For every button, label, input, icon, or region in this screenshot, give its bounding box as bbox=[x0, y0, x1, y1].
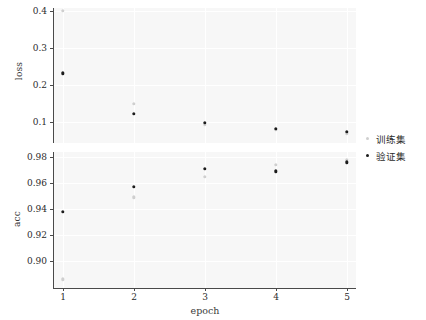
xtick-label-5: 5 bbox=[344, 292, 350, 302]
acc-ytick-label-0-96: 0.96 bbox=[8, 178, 47, 188]
loss-y-axis-spine bbox=[53, 8, 54, 143]
legend: 训练集 验证集 bbox=[366, 130, 426, 164]
data-point-acc-train bbox=[203, 175, 206, 178]
acc-ytick-label-0-92: 0.92 bbox=[8, 230, 47, 240]
acc-ytick-label-0-94: 0.94 bbox=[8, 204, 47, 214]
data-point-loss-train bbox=[132, 102, 135, 105]
gridline-acc-x2 bbox=[134, 152, 135, 288]
loss-ytick-0-4 bbox=[50, 11, 53, 12]
loss-ytick-0-3 bbox=[50, 48, 53, 49]
data-point-loss-train bbox=[61, 9, 64, 12]
data-point-acc-train bbox=[274, 163, 277, 166]
acc-plot-inner bbox=[54, 152, 356, 288]
legend-entry-train: 训练集 bbox=[366, 130, 426, 147]
xtick-label-3: 3 bbox=[202, 292, 208, 302]
acc-ytick-0-92 bbox=[50, 235, 53, 236]
gridline-acc-x1 bbox=[63, 152, 64, 288]
acc-plot-area bbox=[54, 152, 356, 288]
loss-ytick-0-1 bbox=[50, 122, 53, 123]
data-point-acc-val bbox=[203, 167, 206, 170]
acc-y-axis-spine bbox=[53, 152, 54, 288]
xtick-5 bbox=[347, 288, 348, 291]
data-point-acc-val bbox=[345, 160, 348, 163]
xtick-1 bbox=[63, 288, 64, 291]
acc-ytick-0-90 bbox=[50, 261, 53, 262]
loss-ytick-label-0-3: 0.3 bbox=[10, 43, 47, 53]
loss-plot-inner bbox=[54, 8, 356, 143]
loss-ytick-label-0-1: 0.1 bbox=[10, 117, 47, 127]
legend-label-train: 训练集 bbox=[376, 132, 406, 146]
gridline-loss-x1 bbox=[63, 8, 64, 143]
gridline-loss-x4 bbox=[276, 8, 277, 143]
data-point-acc-val bbox=[61, 210, 64, 213]
xtick-4 bbox=[276, 288, 277, 291]
data-point-acc-val bbox=[132, 185, 135, 188]
xtick-2 bbox=[134, 288, 135, 291]
data-point-loss-val bbox=[61, 71, 64, 74]
data-point-acc-train bbox=[61, 277, 64, 280]
xtick-label-2: 2 bbox=[131, 292, 137, 302]
legend-marker-train-icon bbox=[366, 137, 369, 140]
data-point-acc-val bbox=[274, 170, 277, 173]
data-point-loss-val bbox=[132, 112, 135, 115]
xtick-3 bbox=[205, 288, 206, 291]
gridline-acc-x5 bbox=[347, 152, 348, 288]
loss-ytick-0-2 bbox=[50, 85, 53, 86]
acc-ytick-0-98 bbox=[50, 157, 53, 158]
figure: loss 0. bbox=[0, 0, 426, 320]
legend-entry-val: 验证集 bbox=[366, 147, 426, 164]
xtick-label-1: 1 bbox=[60, 292, 66, 302]
loss-ytick-label-0-4: 0.4 bbox=[10, 6, 47, 16]
xtick-label-4: 4 bbox=[273, 292, 279, 302]
gridline-loss-x2 bbox=[134, 8, 135, 143]
acc-ytick-0-94 bbox=[50, 209, 53, 210]
legend-label-val: 验证集 bbox=[376, 149, 406, 163]
acc-ytick-0-96 bbox=[50, 183, 53, 184]
legend-marker-val-icon bbox=[366, 154, 369, 157]
epoch-axis-label: epoch bbox=[155, 305, 255, 316]
loss-plot-area bbox=[54, 8, 356, 143]
gridline-loss-x5 bbox=[347, 8, 348, 143]
gridline-acc-x3 bbox=[205, 152, 206, 288]
acc-ytick-label-0-98: 0.98 bbox=[8, 152, 47, 162]
acc-ytick-label-0-90: 0.90 bbox=[8, 256, 47, 266]
loss-ytick-label-0-2: 0.2 bbox=[10, 80, 47, 90]
data-point-acc-train bbox=[132, 196, 135, 199]
